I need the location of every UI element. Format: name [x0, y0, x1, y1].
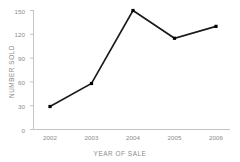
line-chart: 150 120 90 60 30 0 2002 2003 2004 2005 2… — [0, 0, 240, 162]
y-tick-marks — [30, 11, 34, 130]
data-point-2004 — [131, 9, 134, 12]
data-point-2003 — [90, 82, 93, 85]
axis-group — [34, 10, 231, 130]
y-axis-title: NUMBER SOLD — [8, 37, 15, 107]
x-tick-label-2006: 2006 — [201, 134, 231, 141]
data-line — [50, 11, 216, 107]
x-tick-label-2004: 2004 — [118, 134, 148, 141]
x-tick-label-2002: 2002 — [35, 134, 65, 141]
data-point-2002 — [48, 105, 51, 108]
x-axis-title: YEAR OF SALE — [0, 150, 240, 157]
data-point-2006 — [214, 25, 217, 28]
y-tick-label-0: 0 — [5, 127, 25, 134]
data-point-2005 — [173, 37, 176, 40]
y-tick-label-150: 150 — [5, 8, 25, 15]
x-tick-label-2005: 2005 — [160, 134, 190, 141]
x-tick-label-2003: 2003 — [77, 134, 107, 141]
